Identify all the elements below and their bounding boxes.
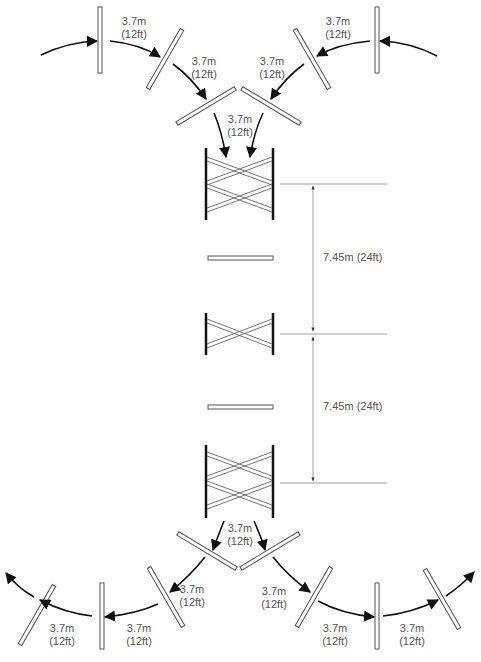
label-metric: 3.7m (218, 113, 262, 126)
label-metric: 3.7m (313, 622, 357, 635)
ground-rail-2 (208, 405, 273, 409)
label-metric: 3.7m (252, 585, 296, 598)
label-imperial: (12ft) (316, 28, 360, 41)
label-metric: 3.7m (170, 583, 214, 596)
label-metric: 3.7m (250, 55, 294, 68)
label-imperial: (12ft) (313, 635, 357, 648)
label-imperial: (12ft) (182, 68, 226, 81)
arrow-bottom-right-4 (383, 600, 438, 616)
spacing-label-top-5: 3.7m (12ft) (316, 15, 360, 41)
pole-top-right-1 (375, 7, 379, 73)
spacing-label-top-center: 3.7m (12ft) (218, 113, 262, 139)
spacing-label-bottom-left-3: 3.7m (12ft) (40, 622, 84, 648)
pole-bottom-right-2 (295, 567, 332, 628)
arrow-top-left-2 (110, 41, 160, 57)
arrow-top-left-1 (41, 41, 97, 55)
label-metric: 3.7m (40, 622, 84, 635)
label-imperial: (12ft) (218, 535, 262, 548)
label-imperial: (12ft) (117, 635, 161, 648)
label-imperial: (12ft) (40, 635, 84, 648)
label-imperial: (12ft) (112, 28, 156, 41)
dimension-label-lower: 7.45m (24ft) (323, 400, 382, 412)
arrow-bottom-left-4 (40, 600, 92, 616)
arrow-bottom-left-5 (6, 573, 34, 597)
dimension-label-upper: 7.45m (24ft) (323, 251, 382, 263)
label-metric: 3.7m (316, 15, 360, 28)
spacing-label-bottom-right-2: 3.7m (12ft) (313, 622, 357, 648)
spacing-label-bottom-left-2: 3.7m (12ft) (117, 622, 161, 648)
arrow-bottom-right-5 (446, 572, 474, 596)
spacing-label-bottom-left-1: 3.7m (12ft) (170, 583, 214, 609)
label-metric: 3.7m (182, 55, 226, 68)
arrow-top-right-1 (380, 41, 437, 56)
pole-bottom-right-4 (423, 569, 460, 630)
pole-bottom-right-3 (375, 583, 379, 649)
label-metric: 3.7m (112, 15, 156, 28)
spacing-label-bottom-right-3: 3.7m (12ft) (390, 622, 434, 648)
pole-top-left-1 (98, 7, 102, 73)
middle-cross-gate (206, 313, 273, 355)
arrow-bottom-left-3 (105, 604, 158, 617)
ground-rail-1 (208, 256, 273, 260)
label-metric: 3.7m (218, 522, 262, 535)
top-cross-gate (206, 148, 273, 220)
label-imperial: (12ft) (170, 596, 214, 609)
label-imperial: (12ft) (252, 598, 296, 611)
spacing-label-bottom-center: 3.7m (12ft) (218, 522, 262, 548)
label-imperial: (12ft) (390, 635, 434, 648)
label-metric: 3.7m (390, 622, 434, 635)
arrow-bottom-right-3 (318, 601, 374, 617)
pole-bottom-left-3 (100, 583, 104, 649)
label-imperial: (12ft) (218, 126, 262, 139)
dimension-lines (280, 184, 387, 483)
spacing-label-top-4: 3.7m (12ft) (250, 55, 294, 81)
spacing-label-top-2: 3.7m (12ft) (182, 55, 226, 81)
label-metric: 3.7m (117, 622, 161, 635)
course-diagram (0, 0, 481, 662)
bottom-cross-gate (206, 445, 273, 518)
arrow-top-right-2 (317, 41, 370, 56)
spacing-label-bottom-right-1: 3.7m (12ft) (252, 585, 296, 611)
spacing-label-top-1: 3.7m (12ft) (112, 15, 156, 41)
label-imperial: (12ft) (250, 68, 294, 81)
